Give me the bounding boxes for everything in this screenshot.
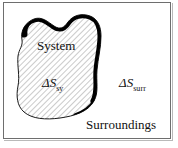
delta-s-system-subscript: sy xyxy=(56,84,63,93)
system-region xyxy=(17,15,101,119)
surroundings-label: Surroundings xyxy=(86,118,156,131)
delta-s-system-label: ΔSsy xyxy=(42,76,63,93)
delta-s-surroundings-subscript: surr xyxy=(133,84,146,93)
delta-s-surroundings-label: ΔSsurr xyxy=(119,76,146,93)
delta-s-system-symbol: ΔS xyxy=(42,75,56,90)
delta-s-surroundings-symbol: ΔS xyxy=(119,75,133,90)
entropy-diagram-figure: System ΔSsy ΔSsurr Surroundings xyxy=(0,0,178,148)
system-label: System xyxy=(37,39,75,52)
